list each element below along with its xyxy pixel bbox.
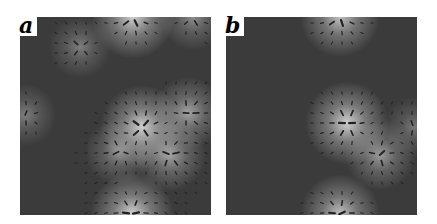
vector-field-plot-b bbox=[226, 17, 417, 215]
panel-b-label: b bbox=[223, 14, 244, 36]
panel-a-label: a bbox=[17, 14, 37, 36]
vector-field-plot-a bbox=[20, 17, 211, 215]
panel-b-vector-field bbox=[226, 17, 417, 215]
panel-a-vector-field bbox=[20, 17, 211, 215]
